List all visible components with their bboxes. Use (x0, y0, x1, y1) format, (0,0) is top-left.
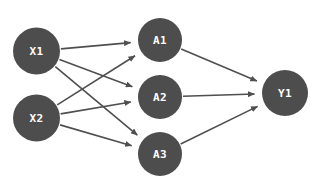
node-a2[interactable]: A2 (138, 75, 182, 119)
node-x1[interactable]: X1 (13, 28, 60, 75)
edge-a1-to-y1 (181, 49, 257, 81)
node-label-a1: A1 (153, 34, 167, 47)
edge-x2-to-a3 (60, 125, 132, 146)
node-label-x1: X1 (29, 45, 43, 58)
edge-x2-to-a2 (61, 102, 131, 114)
edge-a3-to-y1 (181, 106, 258, 144)
neural-network-diagram: X1X2A1A2A3Y1 (0, 0, 311, 186)
nodes-group: X1X2A1A2A3Y1 (13, 18, 308, 176)
diagram-canvas: X1X2A1A2A3Y1 (0, 0, 311, 186)
node-a1[interactable]: A1 (138, 18, 182, 62)
node-a3[interactable]: A3 (138, 132, 182, 176)
node-label-x2: X2 (29, 112, 43, 125)
edge-a2-to-y1 (183, 94, 255, 96)
node-label-a2: A2 (153, 91, 167, 104)
edge-x1-to-a3 (55, 67, 137, 135)
node-label-y1: Y1 (278, 87, 292, 100)
node-x2[interactable]: X2 (13, 95, 60, 142)
edge-x1-to-a1 (61, 43, 131, 49)
node-y1[interactable]: Y1 (262, 70, 308, 116)
node-label-a3: A3 (153, 148, 167, 161)
